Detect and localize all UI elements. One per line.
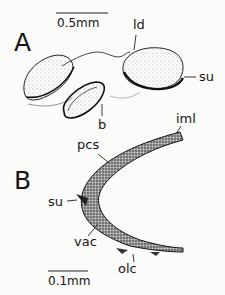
label-b: b <box>98 118 106 131</box>
label-su-b: su <box>48 195 63 208</box>
figure: 0.5mm A ld su b iml pcs B su vac olc 0.1… <box>0 0 225 295</box>
label-vac: vac <box>74 235 97 248</box>
panel-label-a: A <box>14 30 31 55</box>
scale-label-a: 0.5mm <box>57 17 99 29</box>
drawing <box>0 0 225 295</box>
label-ld: ld <box>133 18 145 31</box>
label-olc: olc <box>118 262 137 275</box>
oval-b <box>63 82 104 118</box>
scale-label-b: 0.1mm <box>48 275 90 287</box>
label-su-a: su <box>199 70 214 83</box>
panel-label-b: B <box>14 168 31 193</box>
label-pcs: pcs <box>77 138 99 151</box>
label-iml: iml <box>176 112 196 125</box>
